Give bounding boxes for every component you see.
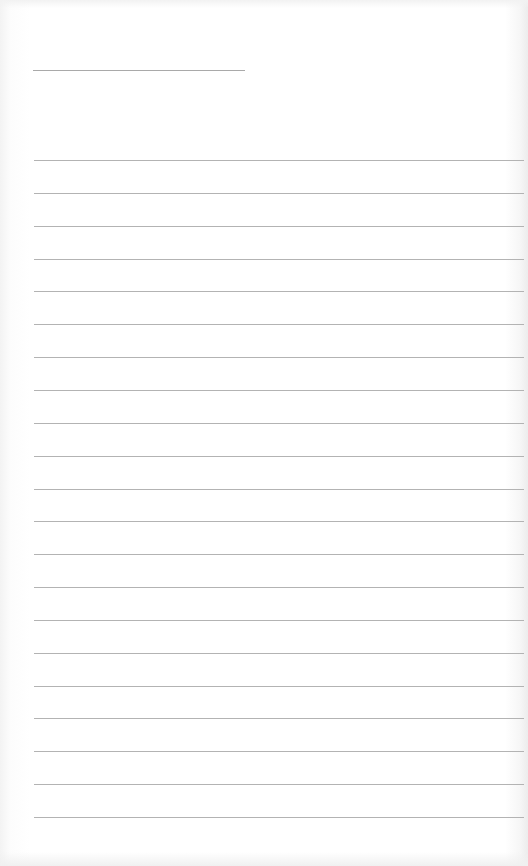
ruled-line (34, 554, 524, 555)
ruled-line (34, 324, 524, 325)
ruled-line-text (36, 537, 516, 553)
ruled-line (34, 390, 524, 391)
ruled-line (34, 620, 524, 621)
ruled-line (34, 193, 524, 194)
ruled-line (34, 259, 524, 260)
ruled-line (34, 160, 524, 161)
ruled-line-text (36, 603, 516, 619)
ruled-line-text (36, 439, 516, 455)
ruled-line (34, 718, 524, 719)
ruled-line (34, 291, 524, 292)
ruled-line (34, 226, 524, 227)
ruled-line-text (36, 734, 516, 750)
title-underline (33, 70, 245, 71)
ruled-line (34, 423, 524, 424)
ruled-line-text (36, 800, 516, 816)
ruled-line-text (36, 176, 516, 192)
ruled-line-text (36, 701, 516, 717)
title-text (36, 52, 246, 68)
ruled-line-text (36, 504, 516, 520)
ruled-line (34, 817, 524, 818)
ruled-line-text (36, 767, 516, 783)
ruled-line-text (36, 472, 516, 488)
ruled-line (34, 751, 524, 752)
ruled-line-text (36, 373, 516, 389)
ruled-line (34, 653, 524, 654)
ruled-line (34, 521, 524, 522)
ruled-line (34, 489, 524, 490)
ruled-line-text (36, 669, 516, 685)
lined-paper-page (0, 0, 528, 866)
ruled-line-text (36, 242, 516, 258)
ruled-line-text (36, 209, 516, 225)
ruled-line (34, 587, 524, 588)
ruled-line-text (36, 406, 516, 422)
ruled-line (34, 784, 524, 785)
ruled-line (34, 456, 524, 457)
ruled-line (34, 357, 524, 358)
ruled-line-text (36, 307, 516, 323)
ruled-line-text (36, 570, 516, 586)
ruled-line-text (36, 143, 516, 159)
ruled-line-text (36, 340, 516, 356)
ruled-line (34, 686, 524, 687)
ruled-line-text (36, 274, 516, 290)
ruled-line-text (36, 636, 516, 652)
